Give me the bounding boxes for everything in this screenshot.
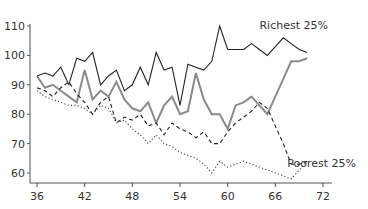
x-tick-label: 48: [125, 190, 139, 203]
series-line-richest-25: [37, 26, 307, 105]
series-lines: [37, 26, 307, 179]
y-tick-label: 70: [11, 138, 25, 151]
series-label: Richest 25%: [259, 19, 327, 32]
x-tick-label: 54: [173, 190, 187, 203]
series-labels: Richest 25%Poorest 25%: [259, 19, 356, 170]
series-line-middle-lower: [37, 82, 307, 164]
line-chart: 6070809010011036424854606672 Richest 25%…: [0, 0, 368, 209]
y-tick-label: 80: [11, 108, 25, 121]
x-tick-label: 66: [268, 190, 282, 203]
y-tick-label: 60: [11, 167, 25, 180]
series-line-poorest-25: [37, 91, 307, 179]
axes: 6070809010011036424854606672: [4, 20, 332, 203]
series-label: Poorest 25%: [287, 157, 356, 170]
x-tick-label: 60: [221, 190, 235, 203]
y-tick-label: 110: [4, 20, 25, 33]
y-tick-label: 90: [11, 79, 25, 92]
y-tick-label: 100: [4, 49, 25, 62]
x-tick-label: 42: [78, 190, 92, 203]
x-tick-label: 72: [316, 190, 330, 203]
x-tick-label: 36: [30, 190, 44, 203]
